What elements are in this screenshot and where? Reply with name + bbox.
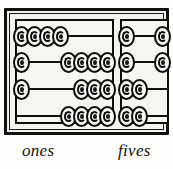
bead-core-icon [125, 34, 129, 39]
abacus-outer-frame [4, 8, 169, 135]
bead-core-icon [138, 114, 142, 119]
bead-core-icon [138, 87, 142, 92]
bead[interactable] [99, 79, 116, 100]
bead[interactable] [154, 52, 171, 73]
bead-core-icon [93, 87, 97, 92]
label-fives: fives [118, 141, 151, 161]
bead-core-icon [20, 60, 24, 65]
bead-core-icon [20, 87, 24, 92]
bead-core-icon [161, 60, 165, 65]
bead-group-fives-2-left[interactable] [118, 78, 148, 100]
bead-group-fives-1-left[interactable] [118, 51, 135, 73]
rod-stack-ones [17, 21, 112, 122]
bead-core-icon [20, 34, 24, 39]
bead[interactable] [99, 52, 116, 73]
bead-group-fives-1-right[interactable] [154, 51, 171, 73]
bead-group-fives-3-left[interactable] [118, 105, 148, 127]
label-ones: ones [22, 141, 54, 161]
bead-core-icon [80, 114, 84, 119]
bead-core-icon [80, 60, 84, 65]
abacus-column-fives[interactable] [120, 19, 169, 124]
bead-group-ones-2-right[interactable] [73, 78, 116, 100]
bead-group-ones-2-left[interactable] [13, 78, 30, 100]
bead[interactable] [99, 106, 116, 127]
bead[interactable] [131, 79, 148, 100]
bead-core-icon [93, 114, 97, 119]
bead[interactable] [118, 26, 135, 47]
bead-core-icon [93, 60, 97, 65]
rod-fives-1[interactable] [122, 49, 167, 75]
bead-group-ones-1-right[interactable] [60, 51, 116, 73]
bead-group-ones-1-left[interactable] [13, 51, 30, 73]
abacus-inner-frame [9, 13, 164, 130]
abacus-column-ones[interactable] [15, 19, 114, 124]
rod-ones-0[interactable] [17, 23, 112, 49]
bead-group-ones-3-right[interactable] [60, 105, 116, 127]
rod-fives-0[interactable] [122, 23, 167, 49]
bead-group-fives-0-left[interactable] [118, 25, 135, 47]
rod-ones-1[interactable] [17, 49, 112, 75]
bead-group-ones-0-left[interactable] [13, 25, 69, 47]
rod-fives-2[interactable] [122, 76, 167, 102]
bead[interactable] [13, 52, 30, 73]
bead[interactable] [13, 79, 30, 100]
bead-group-fives-0-right[interactable] [154, 25, 171, 47]
rod-ones-2[interactable] [17, 76, 112, 102]
bead-core-icon [106, 60, 110, 65]
bead-core-icon [67, 114, 71, 119]
bead-core-icon [67, 60, 71, 65]
bead[interactable] [118, 52, 135, 73]
bead-core-icon [80, 87, 84, 92]
bead-core-icon [106, 114, 110, 119]
bead-core-icon [106, 87, 110, 92]
bead-core-icon [33, 34, 37, 39]
rod-fives-3[interactable] [122, 103, 167, 129]
bead-core-icon [125, 60, 129, 65]
abacus-figure: ones fives [0, 0, 173, 169]
bead-core-icon [59, 34, 63, 39]
bead-core-icon [161, 34, 165, 39]
bead-core-icon [46, 34, 50, 39]
bead[interactable] [131, 106, 148, 127]
rod-stack-fives [122, 21, 167, 122]
column-labels: ones fives [0, 138, 173, 169]
bead[interactable] [154, 26, 171, 47]
bead-core-icon [125, 114, 129, 119]
rod-ones-3[interactable] [17, 103, 112, 129]
bead-core-icon [125, 87, 129, 92]
bead[interactable] [52, 26, 69, 47]
